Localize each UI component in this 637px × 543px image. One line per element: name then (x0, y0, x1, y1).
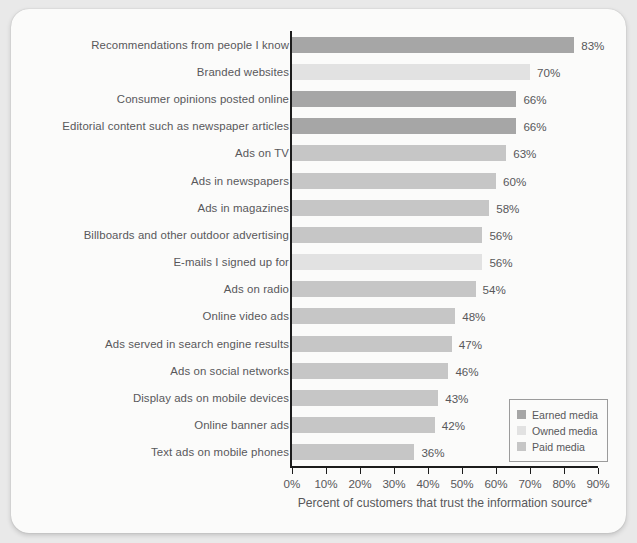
x-axis-tick (496, 468, 497, 474)
bar (292, 173, 496, 189)
bar (292, 118, 516, 134)
bar (292, 227, 482, 243)
bar-track: 60% (292, 173, 598, 189)
x-axis-tick-label: 90% (586, 477, 609, 490)
bar-track: 83% (292, 37, 598, 53)
chart-row: Online video ads48% (11, 303, 626, 330)
category-label: Ads in newspapers (191, 175, 289, 187)
bar-track: 56% (292, 227, 598, 243)
chart-row: Ads on social networks46% (11, 357, 626, 384)
category-label: Text ads on mobile phones (151, 446, 289, 458)
x-axis-tick (292, 468, 293, 474)
category-label: Display ads on mobile devices (133, 392, 289, 404)
x-axis-tick (428, 468, 429, 474)
x-axis-title: Percent of customers that trust the info… (292, 496, 598, 510)
bar-track: 56% (292, 254, 598, 270)
bar-value-label: 47% (452, 337, 482, 350)
x-axis-tick-label: 10% (314, 477, 337, 490)
x-axis-tick (598, 468, 599, 474)
bar (292, 200, 489, 216)
chart-row: Ads in newspapers60% (11, 167, 626, 194)
x-axis-tick-label: 0% (284, 477, 301, 490)
chart-row: Ads served in search engine results47% (11, 330, 626, 357)
legend-swatch-icon (517, 442, 526, 451)
legend-label: Earned media (532, 409, 598, 421)
bar-track: 66% (292, 91, 598, 107)
page-background: Recommendations from people I know83%Bra… (0, 0, 637, 543)
x-axis-tick-label: 60% (484, 477, 507, 490)
bar-track: 46% (292, 363, 598, 379)
bar-value-label: 43% (438, 392, 468, 405)
category-label: Ads on radio (224, 283, 289, 295)
x-axis-tick-label: 80% (552, 477, 575, 490)
x-axis-tick (326, 468, 327, 474)
category-label: Online banner ads (194, 419, 289, 431)
category-label: Ads on social networks (170, 365, 289, 377)
legend-item: Paid media (517, 439, 598, 454)
bar-track: 58% (292, 200, 598, 216)
bar-track: 48% (292, 308, 598, 324)
bar-track: 54% (292, 281, 598, 297)
chart-row: E-mails I signed up for56% (11, 249, 626, 276)
bar (292, 64, 530, 80)
x-axis-tick (462, 468, 463, 474)
bar (292, 390, 438, 406)
bar (292, 254, 482, 270)
x-axis-tick-label: 30% (382, 477, 405, 490)
legend-swatch-icon (517, 410, 526, 419)
bar-value-label: 66% (516, 92, 546, 105)
chart-row: Consumer opinions posted online66% (11, 85, 626, 112)
bar-value-label: 66% (516, 120, 546, 133)
category-label: Ads served in search engine results (105, 338, 289, 350)
category-label: Ads in magazines (197, 202, 289, 214)
x-axis-tick-label: 70% (518, 477, 541, 490)
bar-value-label: 70% (530, 65, 560, 78)
chart-legend: Earned mediaOwned mediaPaid media (509, 399, 608, 462)
category-label: Recommendations from people I know (91, 39, 289, 51)
x-axis-tick-label: 20% (348, 477, 371, 490)
bar-value-label: 36% (414, 446, 444, 459)
x-axis-tick (394, 468, 395, 474)
bar-value-label: 42% (435, 419, 465, 432)
bar-track: 70% (292, 64, 598, 80)
legend-item: Owned media (517, 423, 598, 438)
category-label: E-mails I signed up for (173, 256, 289, 268)
legend-label: Owned media (532, 425, 597, 437)
bar (292, 37, 574, 53)
bar-value-label: 60% (496, 174, 526, 187)
bar-value-label: 56% (482, 228, 512, 241)
bar (292, 444, 414, 460)
chart-row: Ads on radio54% (11, 276, 626, 303)
chart-row: Recommendations from people I know83% (11, 31, 626, 58)
bar-track: 66% (292, 118, 598, 134)
chart-card: Recommendations from people I know83%Bra… (11, 9, 626, 533)
bar (292, 145, 506, 161)
category-label: Editorial content such as newspaper arti… (62, 120, 289, 132)
bar (292, 363, 448, 379)
bar-value-label: 48% (455, 310, 485, 323)
x-axis-tick (360, 468, 361, 474)
bar (292, 281, 476, 297)
x-axis-tick-label: 50% (450, 477, 473, 490)
bar-track: 47% (292, 336, 598, 352)
x-axis-ticks (292, 468, 598, 474)
x-axis-tick (564, 468, 565, 474)
bar (292, 336, 452, 352)
bar-chart: Recommendations from people I know83%Bra… (11, 9, 626, 533)
chart-row: Editorial content such as newspaper arti… (11, 113, 626, 140)
x-axis-tick (530, 468, 531, 474)
chart-row: Ads on TV63% (11, 140, 626, 167)
category-label: Branded websites (197, 66, 289, 78)
chart-row: Ads in magazines58% (11, 194, 626, 221)
x-axis-tick-label: 40% (416, 477, 439, 490)
bar (292, 417, 435, 433)
bar-value-label: 56% (482, 256, 512, 269)
bar-value-label: 54% (476, 283, 506, 296)
chart-row: Branded websites70% (11, 58, 626, 85)
y-axis-line (290, 31, 292, 468)
category-label: Ads on TV (235, 147, 289, 159)
bar-value-label: 58% (489, 201, 519, 214)
bar (292, 91, 516, 107)
legend-label: Paid media (532, 441, 585, 453)
legend-item: Earned media (517, 407, 598, 422)
